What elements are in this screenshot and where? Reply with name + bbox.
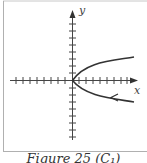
y-axis	[69, 12, 76, 140]
y-axis-arrowhead-icon	[70, 10, 76, 18]
direction-arrow-icon	[111, 94, 118, 101]
parametric-curve-figure: y x	[0, 0, 147, 152]
figure-caption: Figure 25 (C₁)	[0, 152, 147, 163]
x-axis-arrowhead-icon	[130, 78, 138, 84]
x-axis-label: x	[134, 84, 141, 97]
parabola-curve	[73, 57, 135, 102]
y-axis-label: y	[78, 4, 86, 17]
